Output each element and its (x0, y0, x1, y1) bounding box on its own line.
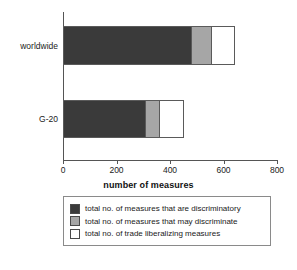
legend-item: total no. of measures that are discrimin… (70, 204, 264, 214)
x-axis-tick (277, 160, 278, 164)
legend-item: total no. of measures that may discrimin… (70, 216, 264, 226)
x-axis-tick-label: 200 (109, 165, 123, 175)
bar-segment-g20-liberalizing (160, 100, 184, 138)
dark-swatch-icon (70, 204, 80, 214)
bar-g20 (63, 100, 184, 138)
x-axis-tick-label: 0 (61, 165, 66, 175)
white-swatch-icon (70, 229, 80, 239)
x-axis-title: number of measures (0, 180, 297, 190)
chart-legend: total no. of measures that are discrimin… (63, 196, 271, 246)
bar-segment-worldwide-discriminatory (63, 26, 192, 65)
x-axis-tick (224, 160, 225, 164)
gray-swatch-icon (70, 216, 80, 226)
bar-segment-g20-discriminatory (63, 100, 146, 138)
legend-item-label: total no. of measures that may discrimin… (85, 217, 238, 226)
x-axis-tick-label: 400 (163, 165, 177, 175)
x-axis-tick-label: 600 (216, 165, 230, 175)
category-label-g20: G-20 (8, 114, 58, 124)
x-axis-tick (170, 160, 171, 164)
legend-item-label: total no. of trade liberalizing measures (85, 229, 220, 238)
stacked-bar-chart: worldwide G-20 0200400600800 number of m… (0, 0, 297, 270)
x-axis-tick-label: 800 (270, 165, 284, 175)
legend-item: total no. of trade liberalizing measures (70, 229, 264, 239)
category-label-worldwide: worldwide (8, 41, 58, 51)
bar-segment-worldwide-liberalizing (212, 26, 235, 65)
x-axis-tick (63, 160, 64, 164)
bar-worldwide (63, 26, 235, 65)
bar-segment-g20-may-discriminate (146, 100, 160, 138)
bar-segment-worldwide-may-discriminate (192, 26, 212, 65)
x-axis-tick (117, 160, 118, 164)
legend-item-label: total no. of measures that are discrimin… (85, 204, 241, 213)
